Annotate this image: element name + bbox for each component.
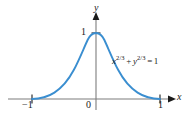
y-axis-arrowhead <box>93 12 100 20</box>
x-tick-label-negative-1: −1 <box>22 100 33 110</box>
equation-term1-exponent: 2/3 <box>116 54 125 61</box>
x-axis-arrowhead <box>168 96 176 103</box>
y-axis-label: y <box>94 3 98 13</box>
astroid-curve-figure: y x 1 −1 1 0 x2/3+y2/3=1 <box>0 0 191 117</box>
equation-right-hand-side: 1 <box>154 56 159 66</box>
y-tick-label-1: 1 <box>81 27 86 37</box>
equation-term2-exponent: 2/3 <box>137 54 146 61</box>
equation-equals-operator: = <box>146 56 154 66</box>
curve-equation-annotation: x2/3+y2/3=1 <box>112 57 158 66</box>
x-axis-label: x <box>177 92 181 102</box>
equation-plus-operator: + <box>125 56 133 66</box>
x-tick-label-1: 1 <box>158 100 163 110</box>
origin-label: 0 <box>86 100 91 110</box>
